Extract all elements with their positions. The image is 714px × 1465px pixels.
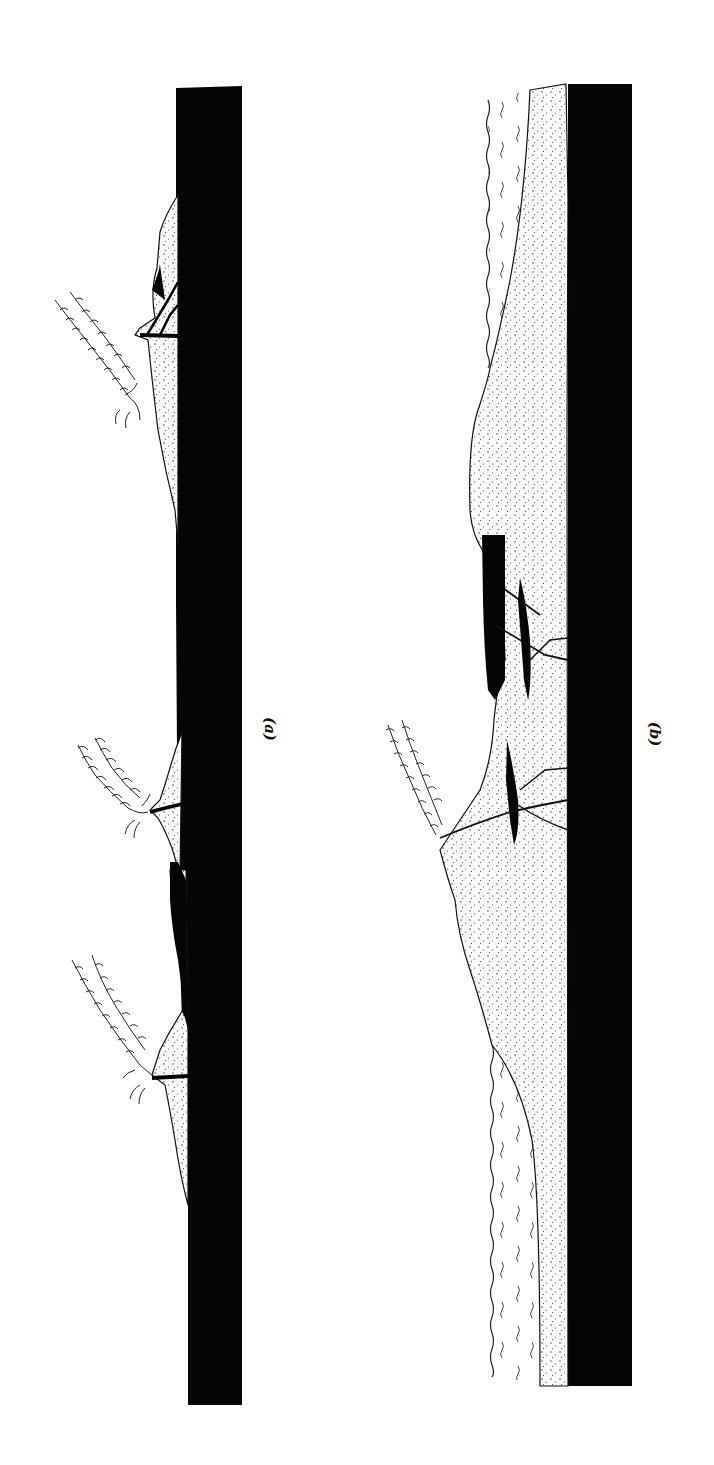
basement-layer-b <box>568 84 632 1386</box>
basement-layer-a <box>176 86 242 1405</box>
diagram-canvas <box>0 0 714 1465</box>
eruption-plume-2 <box>78 738 150 838</box>
dark-infill-between-cones <box>170 862 188 1030</box>
eruption-plume-1 <box>55 292 140 428</box>
panel-b <box>386 84 632 1386</box>
feeder-dyke-cone-1 <box>140 335 178 336</box>
panel-b-label: (b) <box>646 722 664 747</box>
eruption-plume-3 <box>72 955 152 1104</box>
panel-a-label: (a) <box>261 717 279 741</box>
water-surface-upper <box>487 100 490 368</box>
dark-pocket-b <box>482 535 505 700</box>
feeder-dyke-cone-3 <box>152 1076 188 1078</box>
volcanic-cone-1 <box>135 195 178 545</box>
panel-a <box>55 86 242 1405</box>
eruption-plume-b <box>386 720 442 835</box>
